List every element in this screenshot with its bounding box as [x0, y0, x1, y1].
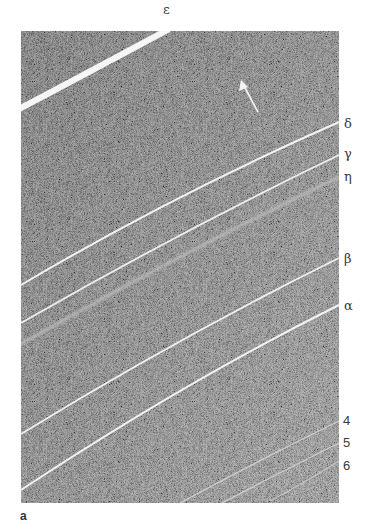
label-epsilon: ε — [163, 3, 170, 16]
label-beta: β — [344, 252, 352, 265]
label-gamma: γ — [344, 147, 352, 160]
label-delta: δ — [344, 117, 352, 130]
label-ring-4: 4 — [343, 414, 350, 427]
ring-photograph-graphic — [21, 31, 339, 503]
label-eta: η — [344, 170, 352, 183]
label-ring-6: 6 — [343, 459, 350, 472]
panel-label: a — [20, 509, 27, 523]
ring-photograph — [21, 31, 339, 503]
caption-fragment-cropped — [20, 524, 140, 529]
label-ring-5: 5 — [343, 436, 350, 449]
label-alpha: α — [344, 299, 353, 312]
figure-panel: ε δ γ η β α 4 5 6 a — [0, 0, 369, 529]
